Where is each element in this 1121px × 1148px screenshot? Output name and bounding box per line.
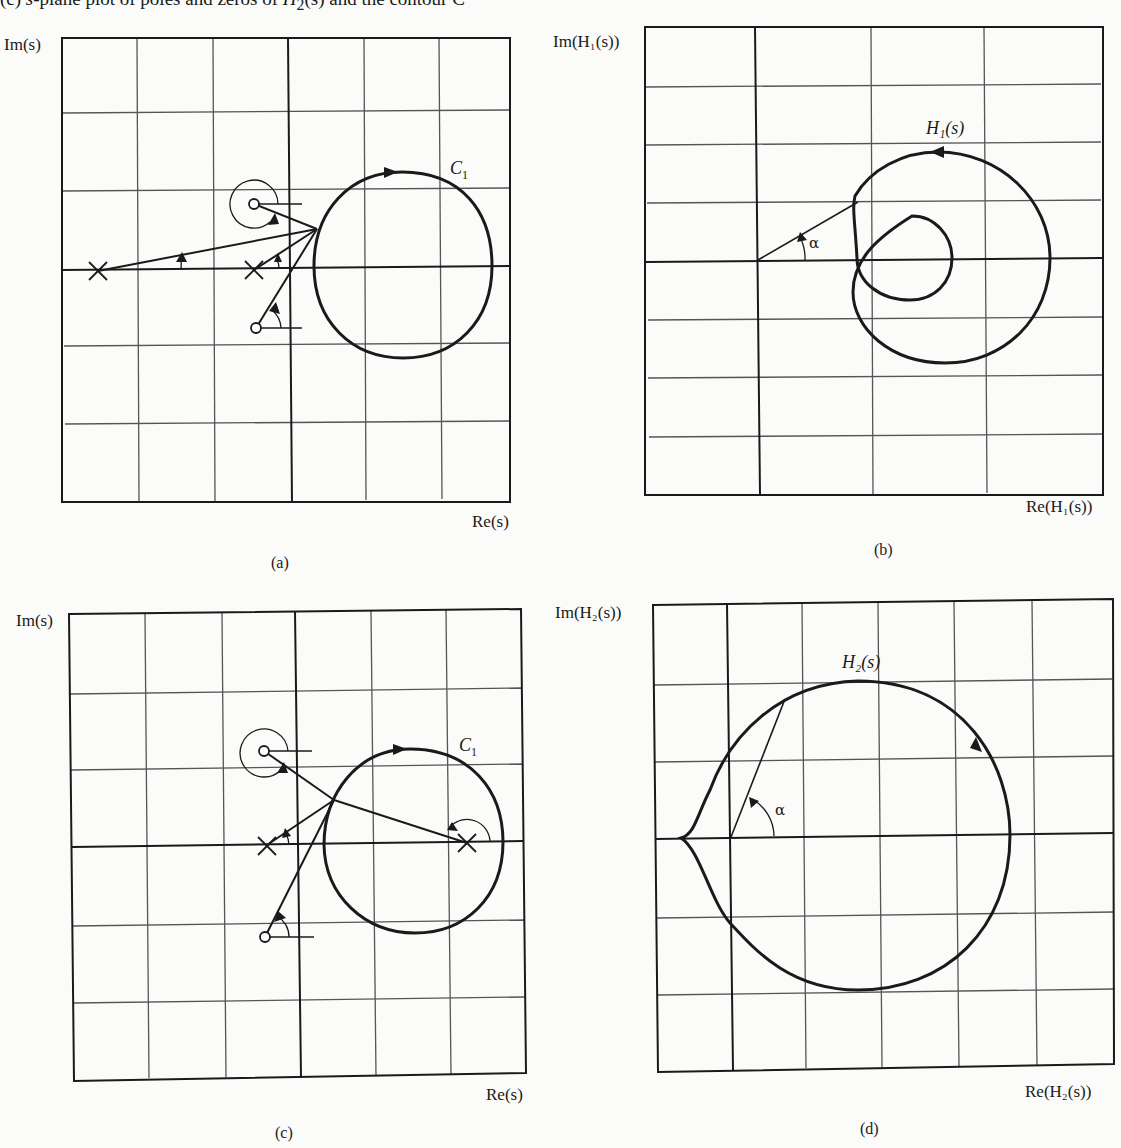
panel-c-plot xyxy=(69,609,526,1081)
panel-a-label: (a) xyxy=(271,554,289,572)
panel-a-pole-icon xyxy=(89,262,107,280)
panel-c-pole-icon xyxy=(258,837,276,855)
figure-canvas xyxy=(0,0,1121,1148)
panel-c-contour-label-sub: 1 xyxy=(471,745,477,759)
panel-b-label: (b) xyxy=(874,541,893,559)
panel-c-contour-arrow-icon xyxy=(393,744,407,755)
panel-d-plot xyxy=(653,599,1115,1072)
panel-a-pole-icon xyxy=(245,261,263,279)
panel-d-label: (d) xyxy=(860,1120,879,1138)
panel-a-plot xyxy=(62,37,510,502)
panel-b-angle-label: α xyxy=(809,234,819,252)
panel-c-zero-icon xyxy=(259,746,269,756)
panel-c-zero-icon xyxy=(260,932,270,942)
panel-a-contour-label-main: C xyxy=(450,158,462,178)
panel-b-y-axis-label: Im(H₁(s)) xyxy=(553,32,619,52)
panel-d-real-axis xyxy=(655,833,1113,839)
panel-a-y-axis-label: Im(s) xyxy=(4,35,41,55)
panel-c-contour-label: C1 xyxy=(459,735,477,760)
panel-d-angle-label: α xyxy=(775,801,785,819)
panel-c-y-axis-label: Im(s) xyxy=(16,611,53,631)
panel-c-label: (c) xyxy=(275,1124,293,1142)
panel-a-x-axis-label: Re(s) xyxy=(472,512,509,532)
panel-a-zero-icon xyxy=(251,323,261,333)
panel-a-contour-label-sub: 1 xyxy=(462,168,468,182)
panel-c-pole-icon xyxy=(458,834,476,852)
panel-d-x-axis-label: Re(H₂(s)) xyxy=(1025,1082,1091,1102)
panel-c-contour-label-main: C xyxy=(459,735,471,755)
panel-b-angle-arrow-icon xyxy=(797,232,807,242)
panel-d-angle-arc xyxy=(752,799,774,836)
panel-a-contour-arrow-icon xyxy=(384,167,398,178)
panel-b-phase-vector xyxy=(758,202,858,260)
panel-a-angle-arrow-icon xyxy=(176,213,282,314)
panel-d-curve-label: H₂(s) xyxy=(842,652,880,673)
panel-b-x-axis-label: Re(H₁(s)) xyxy=(1026,497,1092,517)
panel-a-real-axis xyxy=(62,266,510,270)
panel-b-curve-arrow-icon xyxy=(930,146,944,158)
panel-a-zero-icon xyxy=(249,199,259,209)
panel-a-contour-c1 xyxy=(314,172,492,358)
panel-a-contour-label: C1 xyxy=(450,158,468,183)
panel-b-h1-curve xyxy=(853,152,1050,363)
panel-b-plot xyxy=(645,26,1103,495)
panel-c-x-axis-label: Re(s) xyxy=(486,1085,523,1105)
panel-b-curve-label: H₁(s) xyxy=(926,118,964,139)
panel-b-real-axis xyxy=(646,258,1102,262)
panel-d-y-axis-label: Im(H₂(s)) xyxy=(555,603,621,623)
